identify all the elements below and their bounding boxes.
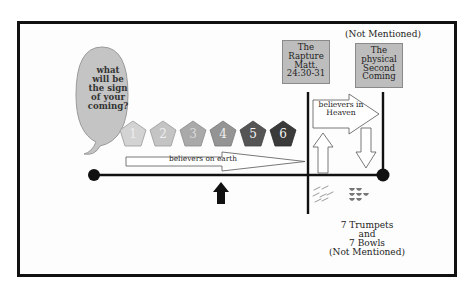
timeline-start-dot — [88, 169, 100, 181]
seal-label-1: 1 — [121, 127, 145, 141]
seal-label-4: 4 — [211, 127, 235, 141]
trumpets-icon — [313, 186, 333, 202]
heaven-arrow-label: believers in Heaven — [313, 101, 369, 117]
up-outline-arrow — [313, 133, 333, 173]
seal-pentagons — [120, 121, 296, 146]
note-line: (Not Mentioned) — [322, 248, 412, 257]
earth-arrow-label: believers on earth — [138, 155, 268, 163]
black-up-arrow — [213, 182, 229, 204]
speech-bubble-text: what will be the sign of your coming? — [80, 66, 136, 111]
bubble-line: coming? — [80, 102, 136, 111]
rapture-line: 24:30-31 — [283, 69, 329, 78]
second-coming-box: The physical Second Coming — [355, 43, 403, 88]
down-outline-arrow — [356, 128, 376, 168]
seal-label-5: 5 — [241, 127, 265, 141]
seal-label-6: 6 — [271, 127, 295, 141]
seal-label-3: 3 — [181, 127, 205, 141]
heaven-line: Heaven — [313, 109, 369, 117]
bowls-icon — [349, 188, 369, 201]
rapture-box: The Rapture Matt. 24:30-31 — [282, 40, 330, 84]
seal-label-2: 2 — [151, 127, 175, 141]
trumpets-bowls-note: 7 Trumpets and 7 Bowls (Not Mentioned) — [322, 221, 412, 257]
second-coming-note: (Not Mentioned) — [340, 30, 426, 39]
second-coming-line: Coming — [356, 72, 402, 81]
